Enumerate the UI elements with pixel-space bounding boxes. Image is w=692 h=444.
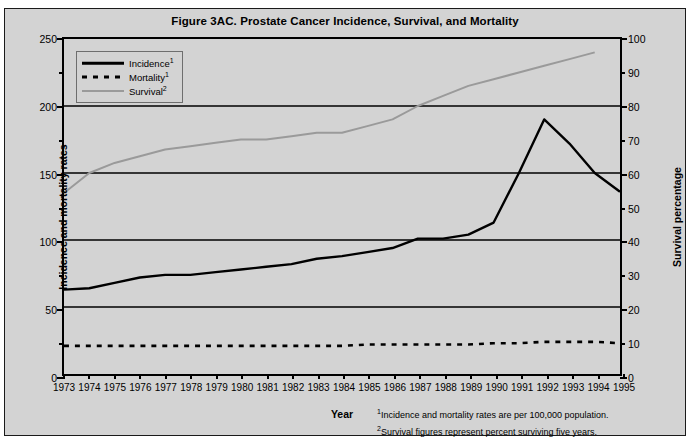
x-axis-tick-label: 1973	[53, 382, 75, 393]
x-axis-tick-mark	[623, 374, 625, 379]
y-axis-right-tick-mark	[620, 106, 627, 108]
x-axis-tick-mark	[241, 374, 243, 379]
y-axis-right-tick-label: 10	[628, 338, 640, 350]
y-axis-left-tick-mark	[57, 106, 64, 108]
x-axis-tick-label: 1974	[78, 382, 100, 393]
y-axis-left-minor-tick-mark	[59, 275, 64, 277]
x-axis-tick-label: 1993	[562, 382, 584, 393]
x-axis-tick-mark	[190, 374, 192, 379]
legend-footnote-marker: 1	[165, 71, 169, 78]
legend: Incidence1Mortality1Survival2	[76, 51, 183, 103]
legend-swatch-mortality	[82, 72, 124, 82]
x-axis-tick-mark	[114, 374, 116, 379]
x-axis-tick-mark	[496, 374, 498, 379]
x-axis-tick-label: 1976	[129, 382, 151, 393]
y-axis-left-tick-mark	[57, 241, 64, 243]
x-axis-tick-mark	[139, 374, 141, 379]
footnote-1: 1Incidence and mortality rates are per 1…	[377, 405, 609, 422]
x-axis-tick-mark	[445, 374, 447, 379]
legend-label-incidence: Incidence1	[129, 57, 174, 69]
y-axis-right-tick-mark	[620, 241, 627, 243]
y-axis-right-title: Survival percentage	[671, 97, 683, 337]
x-axis-tick-label: 1977	[155, 382, 177, 393]
x-axis-tick-mark	[343, 374, 345, 379]
y-axis-right-tick-label: 50	[628, 203, 640, 215]
y-axis-right-tick-label: 100	[628, 33, 646, 45]
legend-item-incidence[interactable]: Incidence1	[82, 56, 174, 70]
x-axis-tick-mark	[598, 374, 600, 379]
x-axis-tick-mark	[419, 374, 421, 379]
series-line-mortality	[64, 342, 620, 346]
footnote-1-text: Incidence and mortality rates are per 10…	[381, 410, 609, 420]
y-axis-right-tick-mark	[620, 343, 625, 345]
x-axis-tick-label: 1991	[511, 382, 533, 393]
x-axis-tick-label: 1981	[257, 382, 279, 393]
x-axis-tick-label: 1989	[460, 382, 482, 393]
legend-label-survival: Survival2	[129, 85, 167, 97]
y-axis-right-tick-label: 40	[628, 236, 640, 248]
y-axis-right-tick-label: 30	[628, 270, 640, 282]
y-axis-left-minor-tick-mark	[59, 343, 64, 345]
x-axis-tick-label: 1986	[384, 382, 406, 393]
y-axis-right-tick-mark	[620, 140, 625, 142]
x-axis-tick-mark	[394, 374, 396, 379]
x-axis-tick-mark	[521, 374, 523, 379]
x-axis-tick-label: 1984	[333, 382, 355, 393]
x-axis-tick-mark	[216, 374, 218, 379]
y-axis-left-tick-mark	[57, 309, 64, 311]
y-axis-left-tick-label: 100	[39, 236, 57, 248]
y-axis-right-tick-mark	[620, 174, 627, 176]
x-axis-tick-label: 1975	[104, 382, 126, 393]
y-axis-left-minor-tick-mark	[59, 140, 64, 142]
x-axis-tick-label: 1988	[435, 382, 457, 393]
x-axis-tick-label: 1978	[180, 382, 202, 393]
page-title: Figure 3AC. Prostate Cancer Incidence, S…	[5, 15, 685, 27]
y-axis-right-tick-mark	[620, 275, 625, 277]
legend-swatch-incidence	[82, 58, 124, 68]
footnotes: 1Incidence and mortality rates are per 1…	[377, 405, 609, 439]
x-axis-tick-label: 1995	[613, 382, 635, 393]
x-axis-tick-mark	[292, 374, 294, 379]
y-axis-left-tick-label: 150	[39, 169, 57, 181]
x-axis-tick-label: 1979	[206, 382, 228, 393]
x-axis-tick-mark	[165, 374, 167, 379]
x-axis-tick-mark	[88, 374, 90, 379]
y-axis-left-minor-tick-mark	[59, 72, 64, 74]
x-axis-tick-mark	[470, 374, 472, 379]
y-axis-left-tick-mark	[57, 174, 64, 176]
y-axis-right-tick-mark	[620, 309, 627, 311]
y-axis-right-tick-label: 20	[628, 304, 640, 316]
footnote-2-text: Survival figures represent percent survi…	[381, 427, 597, 437]
y-axis-left-tick-label: 250	[39, 33, 57, 45]
y-axis-left-tick-label: 50	[45, 304, 57, 316]
x-axis-tick-mark	[572, 374, 574, 379]
x-axis-tick-label: 1980	[231, 382, 253, 393]
legend-label-mortality: Mortality1	[129, 71, 169, 83]
x-axis-tick-label: 1983	[307, 382, 329, 393]
legend-footnote-marker: 1	[170, 57, 174, 64]
legend-item-survival[interactable]: Survival2	[82, 84, 174, 98]
x-axis-tick-label: 1994	[587, 382, 609, 393]
x-axis-tick-label: 1987	[409, 382, 431, 393]
x-axis-tick-mark	[267, 374, 269, 379]
legend-footnote-marker: 2	[163, 85, 167, 92]
x-axis-tick-label: 1990	[486, 382, 508, 393]
x-axis-tick-label: 1982	[282, 382, 304, 393]
y-axis-right-tick-label: 60	[628, 169, 640, 181]
y-axis-right-tick-mark	[620, 38, 627, 40]
x-axis-tick-label: 1985	[358, 382, 380, 393]
y-axis-left-tick-mark	[57, 38, 64, 40]
y-axis-left-tick-label: 200	[39, 101, 57, 113]
legend-item-mortality[interactable]: Mortality1	[82, 70, 174, 84]
y-axis-right-tick-label: 70	[628, 135, 640, 147]
legend-swatch-survival	[82, 86, 124, 96]
series-line-incidence	[64, 119, 620, 289]
footnote-2: 2Survival figures represent percent surv…	[377, 422, 609, 439]
y-axis-right-tick-mark	[620, 72, 625, 74]
x-axis-tick-mark	[547, 374, 549, 379]
x-axis-tick-mark	[368, 374, 370, 379]
y-axis-left-title: Incidence and mortality rates	[57, 97, 69, 337]
figure-container: Figure 3AC. Prostate Cancer Incidence, S…	[4, 8, 686, 436]
plot-area: Incidence and mortality rates Survival p…	[62, 37, 622, 376]
y-axis-left-minor-tick-mark	[59, 208, 64, 210]
